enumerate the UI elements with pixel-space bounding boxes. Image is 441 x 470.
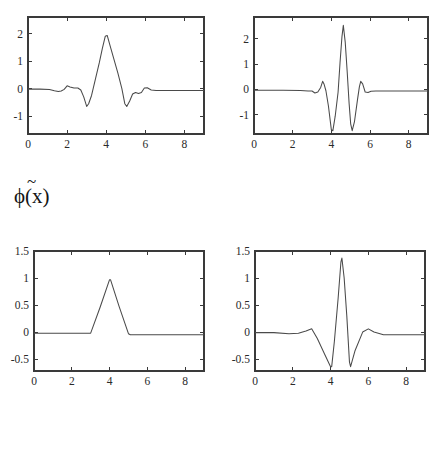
svg-text:8: 8 [406, 138, 412, 150]
figure-grid: 02468-1012 ~ϕ(x) 02468-1012 ~ψ(x) 02468-… [0, 0, 441, 470]
svg-text:1: 1 [243, 58, 249, 70]
panel-bottom-left: 02468-0.500.511.5 ϕ(x) [0, 235, 220, 470]
svg-text:2: 2 [17, 28, 23, 40]
panel-top-left: 02468-1012 ~ϕ(x) [0, 0, 220, 235]
svg-text:0: 0 [23, 326, 29, 338]
svg-text:2: 2 [69, 375, 75, 387]
panel-bottom-right: 02468-0.500.511.5 ψ(x) [221, 235, 441, 470]
svg-text:2: 2 [64, 138, 70, 150]
svg-text:-0.5: -0.5 [11, 353, 29, 365]
plot-phi: 02468-0.500.511.5 [0, 235, 220, 415]
svg-text:0.5: 0.5 [15, 299, 30, 311]
plot-psi-tilde: 02468-1012 [221, 0, 441, 180]
svg-text:4: 4 [328, 375, 334, 387]
panel-top-right: 02468-1012 ~ψ(x) [221, 0, 441, 235]
svg-text:2: 2 [290, 138, 296, 150]
svg-text:8: 8 [182, 375, 188, 387]
tilde-group: ~ϕ(x) [14, 186, 50, 207]
svg-text:0: 0 [252, 375, 258, 387]
svg-text:1: 1 [244, 272, 250, 284]
svg-text:6: 6 [365, 375, 371, 387]
svg-text:-1: -1 [13, 110, 23, 122]
svg-text:0: 0 [243, 83, 249, 95]
svg-text:4: 4 [107, 375, 113, 387]
plot-psi: 02468-0.500.511.5 [221, 235, 441, 415]
svg-text:0: 0 [251, 138, 257, 150]
svg-text:-0.5: -0.5 [232, 353, 250, 365]
panel-label-phi-tilde: ~ϕ(x) [14, 186, 50, 207]
svg-text:4: 4 [328, 138, 334, 150]
svg-text:0: 0 [244, 326, 250, 338]
svg-text:1.5: 1.5 [236, 245, 251, 257]
svg-text:0.5: 0.5 [236, 299, 251, 311]
svg-text:0: 0 [31, 375, 37, 387]
svg-text:2: 2 [290, 375, 296, 387]
svg-text:-1: -1 [239, 109, 249, 121]
svg-text:6: 6 [142, 138, 148, 150]
svg-text:1.5: 1.5 [15, 245, 30, 257]
svg-text:4: 4 [103, 138, 109, 150]
svg-text:6: 6 [367, 138, 373, 150]
svg-text:8: 8 [182, 138, 188, 150]
svg-text:8: 8 [403, 375, 409, 387]
svg-text:1: 1 [23, 272, 29, 284]
svg-text:1: 1 [17, 55, 23, 67]
tilde-accent: ~ [27, 173, 36, 190]
svg-text:6: 6 [144, 375, 150, 387]
svg-text:0: 0 [25, 138, 31, 150]
plot-phi-tilde: 02468-1012 [0, 0, 220, 180]
svg-text:2: 2 [243, 33, 249, 45]
svg-text:0: 0 [17, 83, 23, 95]
